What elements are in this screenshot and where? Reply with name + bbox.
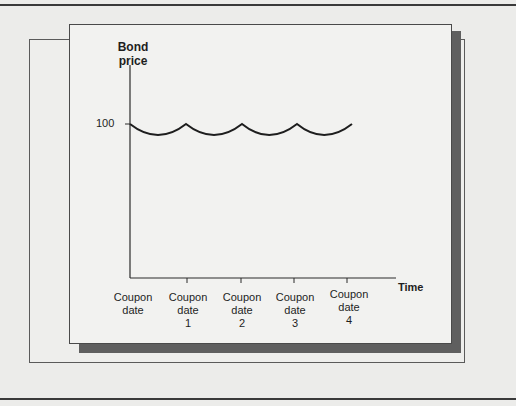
- x-category-coupon-date-0: Coupon date: [103, 291, 163, 317]
- category-line2: date: [158, 304, 218, 317]
- x-category-coupon-date-4: Coupon date 4: [319, 288, 379, 327]
- category-line3: 2: [212, 317, 272, 330]
- x-category-coupon-date-1: Coupon date 1: [158, 291, 218, 330]
- y-axis-label-line2: price: [103, 54, 163, 68]
- chart-plot: [0, 0, 516, 406]
- category-line2: date: [212, 304, 272, 317]
- bond-price-curve: [130, 124, 352, 135]
- x-axis-label: Time: [398, 281, 423, 294]
- x-category-coupon-date-3: Coupon date 3: [265, 291, 325, 330]
- category-line2: date: [265, 304, 325, 317]
- category-line1: Coupon: [265, 291, 325, 304]
- category-line1: Coupon: [319, 288, 379, 301]
- category-line2: date: [319, 301, 379, 314]
- category-line1: Coupon: [212, 291, 272, 304]
- category-line3: 4: [319, 314, 379, 327]
- y-axis-label: Bond price: [103, 40, 163, 68]
- category-line3: 3: [265, 317, 325, 330]
- category-line2: date: [103, 304, 163, 317]
- category-line3: 1: [158, 317, 218, 330]
- category-line1: Coupon: [103, 291, 163, 304]
- y-tick-label-100: 100: [96, 117, 114, 130]
- x-ticks: [187, 278, 347, 283]
- y-axis-label-line1: Bond: [103, 40, 163, 54]
- category-line1: Coupon: [158, 291, 218, 304]
- x-category-coupon-date-2: Coupon date 2: [212, 291, 272, 330]
